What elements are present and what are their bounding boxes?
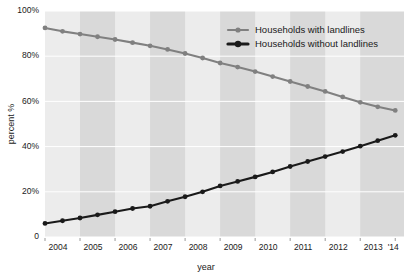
x-tick-label-2: 2006 <box>119 242 138 252</box>
x-tick-label-4: 2008 <box>189 242 208 252</box>
x-tick-label-9: 2013 <box>364 242 383 252</box>
series-1-point-3 <box>95 212 100 217</box>
series-0-point-15 <box>305 84 310 89</box>
series-1-point-10 <box>218 184 223 189</box>
series-1-point-5 <box>130 206 135 211</box>
y-tick-label-2: 40% <box>22 141 39 151</box>
series-0-point-10 <box>218 61 223 66</box>
series-0-point-1 <box>60 29 65 34</box>
series-1-point-1 <box>60 218 65 223</box>
series-0-point-3 <box>95 34 100 39</box>
series-0-point-17 <box>340 94 345 99</box>
x-tick-label-10: '14 <box>388 242 399 252</box>
legend-marker-dot-1 <box>235 41 241 47</box>
x-axis-tick-labels: 2004200520062007200820092010201120122013… <box>49 242 400 252</box>
y-tick-label-1: 20% <box>22 186 39 196</box>
series-1-point-15 <box>305 159 310 164</box>
series-1-point-11 <box>235 179 240 184</box>
line-chart: 020%40%60%80%100% 2004200520062007200820… <box>0 0 412 277</box>
series-1-point-12 <box>253 174 258 179</box>
series-0-point-12 <box>253 69 258 74</box>
legend-label-1[interactable]: Households without landlines <box>255 38 378 49</box>
series-1-point-17 <box>340 149 345 154</box>
series-0-point-4 <box>113 37 118 42</box>
series-0-point-8 <box>183 51 188 56</box>
series-0-point-16 <box>323 89 328 94</box>
y-tick-label-0: 0 <box>34 231 39 241</box>
series-1-point-4 <box>113 209 118 214</box>
series-1-point-8 <box>183 194 188 199</box>
series-0-point-9 <box>200 56 205 61</box>
series-1-point-6 <box>148 204 153 209</box>
y-tick-label-4: 80% <box>22 50 39 60</box>
series-1-point-2 <box>78 216 83 221</box>
series-0-point-13 <box>270 74 275 79</box>
y-axis-tick-labels: 020%40%60%80%100% <box>17 5 39 241</box>
legend-label-0[interactable]: Households with landlines <box>255 24 365 35</box>
series-0-point-0 <box>43 26 48 31</box>
series-1-point-0 <box>43 221 48 226</box>
legend-marker-dot-0 <box>235 27 240 32</box>
series-1-point-13 <box>270 170 275 175</box>
series-0-point-6 <box>148 43 153 48</box>
series-0-point-11 <box>235 65 240 70</box>
series-0-point-2 <box>78 32 83 37</box>
x-tick-label-6: 2010 <box>259 242 278 252</box>
chart-container: 020%40%60%80%100% 2004200520062007200820… <box>0 0 412 277</box>
series-0-point-18 <box>358 100 363 105</box>
x-axis-title: year <box>197 262 215 272</box>
x-tick-label-5: 2009 <box>224 242 243 252</box>
series-0-point-5 <box>130 40 135 45</box>
series-0-point-14 <box>288 79 293 84</box>
x-tickmarks <box>45 238 395 241</box>
series-0-point-20 <box>393 108 398 113</box>
year-band-1 <box>80 11 115 237</box>
series-1-point-16 <box>323 154 328 159</box>
x-tick-label-3: 2007 <box>154 242 173 252</box>
series-1-point-7 <box>165 199 170 204</box>
y-tick-label-5: 100% <box>17 5 39 15</box>
series-1-point-19 <box>375 138 380 143</box>
y-axis-title: percent % <box>6 104 16 145</box>
series-1-point-20 <box>393 133 398 138</box>
x-tick-label-1: 2005 <box>84 242 103 252</box>
series-1-point-14 <box>288 164 293 169</box>
x-tick-label-8: 2012 <box>329 242 348 252</box>
series-1-point-9 <box>200 189 205 194</box>
series-0-point-19 <box>375 104 380 109</box>
y-tick-label-3: 60% <box>22 96 39 106</box>
series-1-point-18 <box>358 144 363 149</box>
series-0-point-7 <box>165 47 170 52</box>
x-tick-label-0: 2004 <box>49 242 68 252</box>
x-tick-label-7: 2011 <box>294 242 313 252</box>
